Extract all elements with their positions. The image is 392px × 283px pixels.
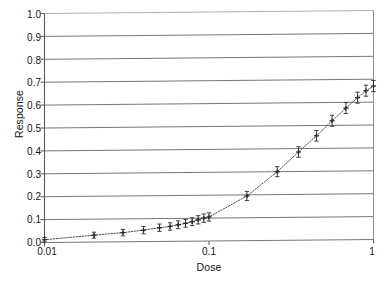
gridline-horizontal bbox=[45, 171, 374, 174]
gridline-horizontal bbox=[45, 194, 374, 197]
gridline-horizontal bbox=[45, 125, 374, 128]
gridline-horizontal bbox=[45, 79, 374, 82]
gridline-horizontal bbox=[45, 33, 374, 36]
gridline-horizontal bbox=[45, 56, 374, 59]
plot-top-border bbox=[45, 11, 374, 14]
gridline-horizontal bbox=[45, 148, 374, 151]
gridline-horizontal bbox=[45, 102, 374, 105]
plot-canvas bbox=[0, 0, 392, 283]
dose-response-chart: 1.0 0.9 0.8 0.7 0.6 0.5 0.4 0.3 0.2 0.1 … bbox=[0, 0, 392, 283]
